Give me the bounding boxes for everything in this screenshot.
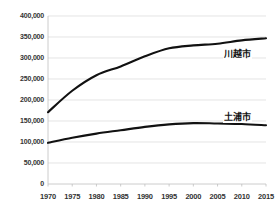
series-label-川越市: 川越市 (223, 47, 252, 60)
y-tick-label: 350,000 (20, 33, 44, 40)
y-tick-label: 400,000 (20, 12, 44, 19)
chart-plot-area (0, 0, 276, 206)
y-tick-label: 250,000 (20, 75, 44, 82)
y-tick-label: 150,000 (20, 117, 44, 124)
x-tick-label: 2015 (252, 192, 276, 201)
y-tick-label: 0 (40, 180, 44, 187)
y-tick-label: 100,000 (20, 138, 44, 145)
gridlines (48, 16, 266, 163)
population-line-chart: 050,000100,000150,000200,000250,000300,0… (0, 0, 276, 206)
y-tick-label: 200,000 (20, 96, 44, 103)
series-line-1 (48, 123, 266, 143)
y-tick-label: 300,000 (20, 54, 44, 61)
y-tick-label: 50,000 (24, 159, 44, 166)
series-label-土浦市: 土浦市 (223, 110, 252, 123)
